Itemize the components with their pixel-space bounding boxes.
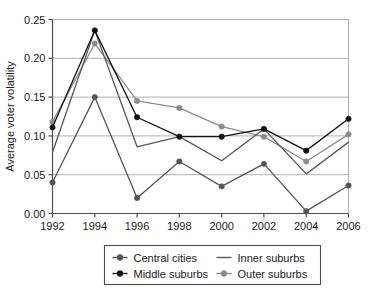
y-tick-label: 0.20 <box>24 52 45 64</box>
x-tick-label: 1992 <box>40 220 64 232</box>
voter-volatility-line-chart: 0.000.050.100.150.200.25 199219941996199… <box>0 0 371 292</box>
data-point <box>177 134 182 139</box>
data-point <box>92 94 97 99</box>
legend-label: Middle suburbs <box>134 268 209 280</box>
legend-label: Outer suburbs <box>238 268 308 280</box>
data-point <box>219 134 224 139</box>
x-tick-label: 1998 <box>167 220 191 232</box>
data-point <box>304 159 309 164</box>
legend-label: Inner suburbs <box>238 252 306 264</box>
y-tick-label: 0.10 <box>24 130 45 142</box>
data-point <box>50 180 55 185</box>
data-point <box>92 28 97 33</box>
legend-marker <box>117 271 123 277</box>
data-point <box>92 41 97 46</box>
legend-label: Central cities <box>134 252 198 264</box>
data-point <box>134 195 139 200</box>
y-tick-label: 0.05 <box>24 169 45 181</box>
data-point <box>261 126 266 131</box>
data-point <box>304 208 309 213</box>
data-point <box>50 125 55 130</box>
y-tick-label: 0.00 <box>24 208 45 220</box>
data-point <box>134 98 139 103</box>
data-point <box>134 115 139 120</box>
chart-legend[interactable]: Central citiesInner suburbsMiddle suburb… <box>105 246 321 285</box>
x-tick-label: 2004 <box>294 220 318 232</box>
x-tick-label: 2000 <box>209 220 233 232</box>
data-point <box>219 184 224 189</box>
data-point <box>177 159 182 164</box>
x-tick-label: 1996 <box>125 220 149 232</box>
chart-screenshot: 0.000.050.100.150.200.25 199219941996199… <box>0 0 371 292</box>
y-tick-label: 0.15 <box>24 91 45 103</box>
data-point <box>346 183 351 188</box>
data-point <box>261 161 266 166</box>
data-point <box>261 134 266 139</box>
x-tick-label: 2006 <box>336 220 360 232</box>
y-tick-label: 0.25 <box>24 14 45 26</box>
data-point <box>304 148 309 153</box>
x-tick-label: 2002 <box>252 220 276 232</box>
data-point <box>177 105 182 110</box>
x-tick-label: 1994 <box>83 220 107 232</box>
y-axis-label: Average voter volatility <box>4 61 16 172</box>
data-point <box>219 124 224 129</box>
y-axis-title: Average voter volatility <box>4 61 16 172</box>
data-point <box>346 116 351 121</box>
legend-marker <box>117 255 123 261</box>
legend-marker <box>221 271 227 277</box>
data-point <box>346 132 351 137</box>
